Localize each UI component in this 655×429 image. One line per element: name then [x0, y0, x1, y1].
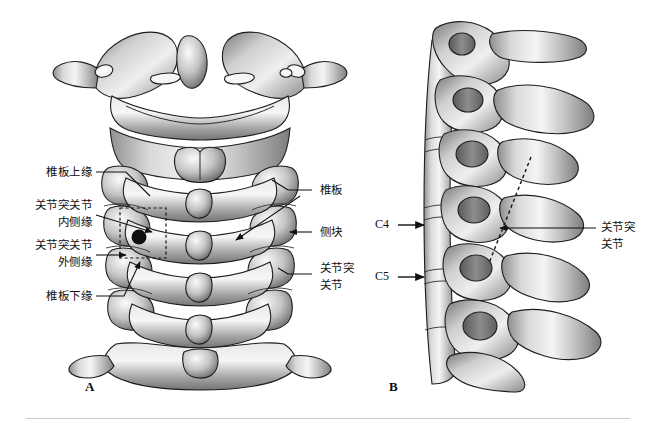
panel-b-artwork [398, 22, 601, 392]
label-text-line2: 关节 [320, 277, 380, 294]
label-text: 椎板上缘 [4, 164, 92, 181]
label-text-line1: 关节突关节 [4, 237, 92, 254]
label-text-line2: 内侧缘 [4, 214, 92, 231]
label-text: 侧块 [320, 224, 380, 241]
label-facet-joint-panel-a: 关节突 关节 [320, 260, 380, 294]
label-text-line1: 关节突 [601, 219, 653, 236]
label-lamina: 椎板 [320, 182, 380, 199]
label-text-line2: 外侧缘 [4, 254, 92, 271]
label-lamina-superior-border: 椎板上缘 [4, 164, 92, 181]
label-text-line2: 关节 [601, 236, 653, 253]
label-text: 椎板 [320, 182, 380, 199]
vertebra-mark-c5: C5 [375, 269, 389, 284]
anatomy-illustration [0, 0, 655, 429]
entry-point-dot [132, 230, 147, 245]
label-facet-joint-medial-border: 关节突关节 内侧缘 [4, 197, 92, 231]
label-facet-joint-panel-b: 关节突 关节 [601, 219, 653, 253]
panel-a-artwork [53, 32, 347, 390]
panel-letter-a: A [85, 379, 94, 395]
label-text: 椎板下缘 [4, 288, 92, 305]
label-lateral-mass: 侧块 [320, 224, 380, 241]
panel-letter-b: B [389, 379, 398, 395]
label-facet-joint-lateral-border: 关节突关节 外侧缘 [4, 237, 92, 271]
label-text-line1: 关节突关节 [4, 197, 92, 214]
anatomy-figure: 椎板上缘 关节突关节 内侧缘 关节突关节 外侧缘 椎板下缘 椎板 侧块 关节突 … [0, 0, 655, 429]
label-text-line1: 关节突 [320, 260, 380, 277]
label-lamina-inferior-border: 椎板下缘 [4, 288, 92, 305]
vertebra-mark-c4: C4 [375, 217, 389, 232]
footer-divider [26, 418, 630, 419]
